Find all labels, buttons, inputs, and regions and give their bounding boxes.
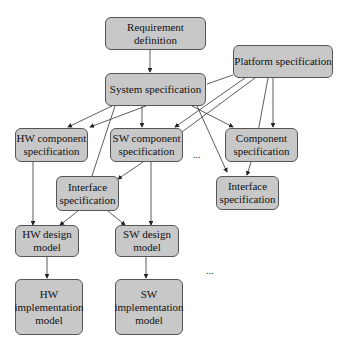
- sw-implementation-model-node: SW implementation model: [115, 279, 183, 335]
- ellipsis-1: ...: [193, 149, 201, 160]
- sw-component-specification-node: SW component specification: [110, 128, 183, 162]
- component-specification-node: Component specification: [225, 128, 298, 162]
- hw-implementation-model-node: HW implementation model: [15, 279, 83, 335]
- hw-design-model-node: HW design model: [15, 225, 79, 257]
- system-specification-node: System specification: [105, 73, 206, 106]
- sw-design-model-node: SW design model: [115, 225, 179, 257]
- interface-specification-right-node: Interface specification: [216, 176, 279, 210]
- ellipsis-2: ...: [206, 265, 214, 276]
- hw-component-specification-node: HW component specification: [15, 128, 88, 162]
- interface-specification-left-node: Interface specification: [56, 176, 119, 211]
- platform-specification-node: Platform specification: [233, 45, 333, 78]
- requirement-definition-node: Requirement definition: [105, 17, 206, 50]
